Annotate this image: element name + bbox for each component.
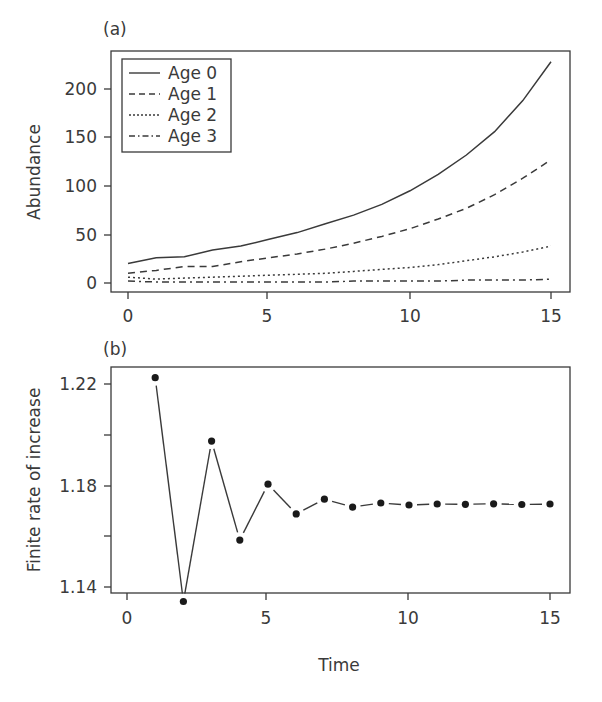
series-segment [361,504,373,506]
y-axis-title: Finite rate of increase [24,388,44,573]
x-tick-label: 5 [262,306,273,326]
series-segment [243,491,264,533]
panel-a-label: (a) [103,19,127,39]
data-point-marker [180,598,187,605]
legend-label: Age 2 [168,105,217,125]
y-axis-title: Abundance [24,124,44,220]
x-tick-label: 0 [122,608,133,628]
series-line-age-2 [128,246,551,279]
data-point-marker [546,500,553,507]
series-segment [274,490,291,508]
data-point-marker [321,496,328,503]
data-point-marker [349,504,356,511]
x-tick-label: 15 [539,608,561,628]
data-point-marker [405,501,412,508]
data-point-marker [264,481,271,488]
x-tick-label: 15 [540,306,562,326]
series-line-age-3 [128,279,551,282]
panel-a-abundance-chart: (a) 0 50 100 150 200 Abundance 0 5 10 15 [24,19,570,326]
plot-frame [111,367,570,593]
y-tick-label: 1.22 [59,374,97,394]
panel-b-label: (b) [103,339,127,359]
y-axis: 0 50 100 150 200 Abundance [24,79,111,293]
series-segment [332,501,345,505]
panel-b-rate-chart: (b) 1.22 1.18 1.14 Finite rate of increa… [24,339,570,675]
legend-label: Age 1 [168,84,217,104]
y-tick-label: 0 [86,273,97,293]
data-point-marker [377,499,384,506]
data-point-marker [236,537,243,544]
y-tick-label: 50 [75,225,97,245]
series-segment [185,449,210,594]
data-point-marker [518,501,525,508]
x-tick-label: 5 [261,608,272,628]
data-point-marker [490,500,497,507]
data-point-marker [434,500,441,507]
y-tick-label: 200 [65,79,97,99]
rate-series [152,374,554,605]
y-tick-label: 150 [65,127,97,147]
x-axis-title: Time [317,655,360,675]
x-axis: 0 5 10 15 Time [122,593,561,675]
y-tick-label: 1.18 [59,476,97,496]
series-segment [417,504,429,505]
y-tick-label: 1.14 [59,577,97,597]
data-point-marker [293,510,300,517]
figure: (a) 0 50 100 150 200 Abundance 0 5 10 15 [0,0,602,702]
x-tick-label: 10 [399,306,421,326]
series-segment [156,386,182,594]
y-tick-label: 100 [65,176,97,196]
legend-label: Age 3 [168,126,217,146]
series-line-age-1 [128,160,551,273]
legend: Age 0 Age 1 Age 2 Age 3 [122,59,231,152]
series-segment [389,504,401,505]
data-point-marker [152,374,159,381]
legend-label: Age 0 [168,63,217,83]
series-segment [303,503,317,510]
x-tick-label: 0 [123,306,134,326]
data-point-marker [208,438,215,445]
series-segment [214,449,238,533]
x-axis: 0 5 10 15 [123,292,562,326]
x-tick-label: 10 [397,608,419,628]
data-point-marker [462,501,469,508]
y-axis: 1.22 1.18 1.14 Finite rate of increase [24,374,111,597]
